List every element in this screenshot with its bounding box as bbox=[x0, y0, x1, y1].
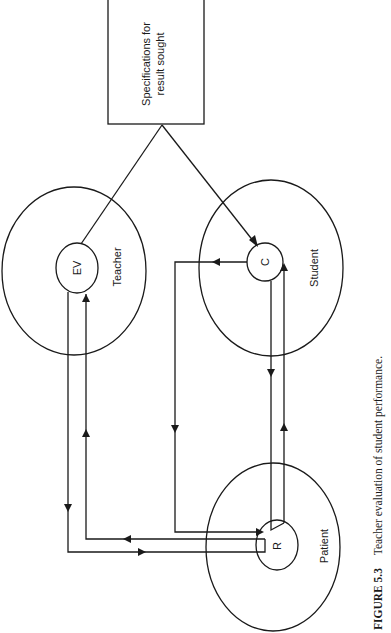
patient-node: R Patient bbox=[206, 463, 340, 631]
ev-to-r-path bbox=[68, 292, 265, 552]
figure-number: FIGURE 5.3 bbox=[372, 568, 384, 630]
arrow-up-icon bbox=[280, 423, 288, 431]
student-label: Student bbox=[308, 249, 320, 287]
box-to-ev-line bbox=[81, 125, 162, 244]
arrow-up-icon bbox=[82, 429, 90, 437]
teacher-node: EV Teacher bbox=[2, 187, 146, 355]
arrow-down-icon bbox=[64, 504, 72, 512]
arrow-up-icon bbox=[280, 263, 288, 271]
arrow-down-icon bbox=[267, 369, 275, 377]
spec-box-line2: result sought bbox=[154, 33, 166, 96]
c-label: C bbox=[259, 258, 271, 266]
arrow-up-icon bbox=[82, 294, 90, 302]
figure-caption-text: Teacher evaluation of student performanc… bbox=[372, 356, 385, 556]
figure-caption: FIGURE 5.3 Teacher evaluation of student… bbox=[372, 356, 385, 630]
c-to-r-left-path bbox=[175, 262, 262, 532]
teacher-evaluation-diagram: Specifications for result sought EV Teac… bbox=[0, 0, 391, 633]
arrow-left-icon bbox=[123, 535, 131, 543]
teacher-label: Teacher bbox=[111, 247, 123, 286]
ev-label: EV bbox=[71, 260, 83, 275]
arrow-left-icon bbox=[212, 258, 220, 266]
r-label: R bbox=[271, 542, 283, 550]
spec-box: Specifications for result sought bbox=[108, 0, 204, 124]
arrow-right-icon bbox=[138, 548, 146, 556]
patient-label: Patient bbox=[318, 529, 330, 563]
spec-box-line1: Specifications for bbox=[140, 22, 152, 106]
c-to-r-direct-path bbox=[271, 281, 284, 530]
arrow-down-icon bbox=[171, 425, 179, 433]
